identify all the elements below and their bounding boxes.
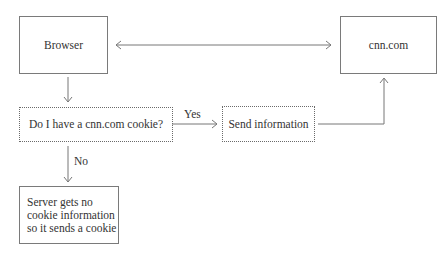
decision-node: Do I have a cnn.com cookie? bbox=[19, 107, 173, 142]
browser-label: Browser bbox=[44, 39, 83, 52]
send-information-label: Send information bbox=[228, 118, 308, 131]
send-information-node: Send information bbox=[222, 106, 315, 142]
server-label-line1: Server gets no bbox=[27, 196, 116, 209]
cnn-node: cnn.com bbox=[340, 16, 437, 74]
decision-label: Do I have a cnn.com cookie? bbox=[29, 118, 163, 131]
no-label: No bbox=[74, 155, 88, 167]
browser-node: Browser bbox=[19, 16, 108, 74]
server-node: Server gets no cookie information so it … bbox=[19, 186, 119, 244]
server-label-line3: so it sends a cookie bbox=[27, 222, 116, 235]
arrow-send-to-cnn bbox=[318, 79, 384, 124]
yes-label: Yes bbox=[184, 108, 201, 120]
cnn-label: cnn.com bbox=[369, 39, 408, 52]
server-label-line2: cookie information bbox=[27, 209, 116, 222]
